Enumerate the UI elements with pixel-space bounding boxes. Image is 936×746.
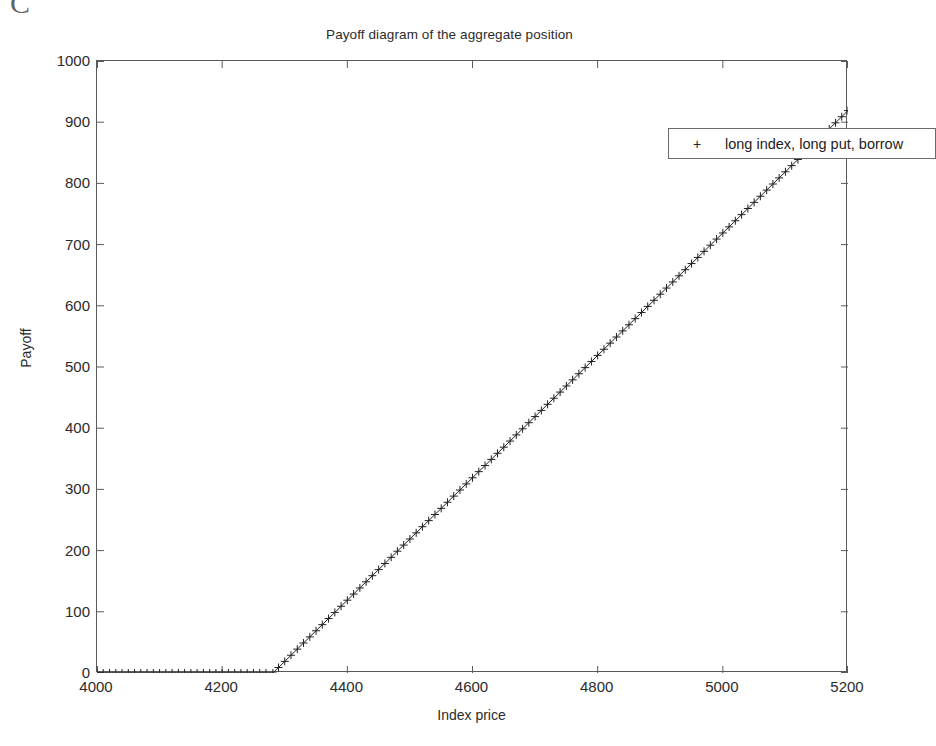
y-tick-label: 900 — [32, 113, 90, 130]
x-tick-label: 5000 — [705, 678, 738, 695]
plot-area: + long index, long put, borrow — [96, 60, 847, 672]
x-tick-label: 5200 — [830, 678, 863, 695]
chart-title: Payoff diagram of the aggregate position — [0, 27, 899, 42]
y-axis-tick-labels: 01002003004005006007008009001000 — [28, 60, 90, 672]
y-tick-label: 100 — [32, 602, 90, 619]
x-axis-title: Index price — [96, 707, 847, 723]
y-tick-label: 400 — [32, 419, 90, 436]
legend-label: long index, long put, borrow — [725, 136, 903, 152]
x-tick-label: 4600 — [455, 678, 488, 695]
series-line — [97, 111, 848, 673]
plus-marker-icon: + — [669, 137, 725, 151]
data-series-long-index-long-put-borrow — [97, 107, 848, 673]
x-tick-label: 4400 — [330, 678, 363, 695]
y-tick-label: 1000 — [32, 52, 90, 69]
x-tick-label: 4000 — [79, 678, 112, 695]
y-tick-label: 800 — [32, 174, 90, 191]
y-tick-label: 600 — [32, 296, 90, 313]
y-tick-label: 700 — [32, 235, 90, 252]
legend-box[interactable]: + long index, long put, borrow — [668, 128, 936, 159]
y-tick-label: 200 — [32, 541, 90, 558]
series-markers — [97, 107, 848, 673]
y-axis-title: Payoff — [18, 298, 34, 398]
x-tick-label: 4800 — [580, 678, 613, 695]
x-axis-tick-labels: 4000420044004600480050005200 — [96, 678, 847, 702]
y-tick-label: 300 — [32, 480, 90, 497]
y-tick-label: 500 — [32, 358, 90, 375]
x-tick-label: 4200 — [204, 678, 237, 695]
